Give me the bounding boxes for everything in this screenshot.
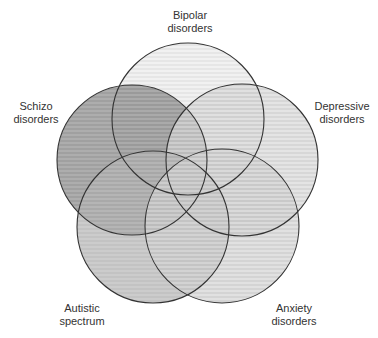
label-anxiety-disorders: Anxiety disorders: [271, 302, 316, 328]
label-schizo-disorders: Schizo disorders: [13, 100, 58, 126]
label-depressive-disorders: Depressive disorders: [314, 100, 369, 126]
label-bipolar-disorders: Bipolar disorders: [167, 9, 212, 35]
label-autistic-spectrum: Autistic spectrum: [59, 302, 104, 328]
venn-diagram: [0, 0, 378, 338]
